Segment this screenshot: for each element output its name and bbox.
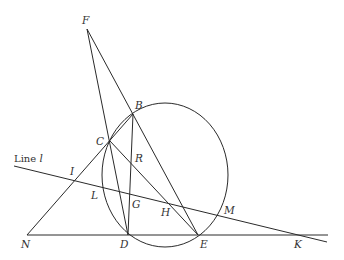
label-F: F <box>81 14 90 26</box>
label-B: B <box>134 99 143 111</box>
label-M: M <box>223 204 235 216</box>
label-C: C <box>96 135 104 147</box>
geometry-diagram: F B C R I L G H M N D E K Line l <box>0 0 344 260</box>
circle <box>102 103 228 247</box>
segment-BD <box>128 114 133 235</box>
label-D: D <box>119 238 129 250</box>
label-L: L <box>90 189 98 201</box>
segment-CE <box>110 141 198 235</box>
line-l <box>14 166 327 242</box>
line-l-prefix: Line <box>14 153 39 164</box>
label-N: N <box>20 238 31 250</box>
label-H: H <box>160 206 171 218</box>
segment-NB <box>27 114 133 235</box>
line-l-name: l <box>39 152 42 164</box>
label-K: K <box>293 238 303 250</box>
line-l-label: Line l <box>14 152 43 164</box>
label-G: G <box>132 198 140 210</box>
label-I: I <box>69 165 75 177</box>
label-E: E <box>199 238 208 250</box>
label-R: R <box>134 152 143 164</box>
segment-FE <box>87 29 198 235</box>
